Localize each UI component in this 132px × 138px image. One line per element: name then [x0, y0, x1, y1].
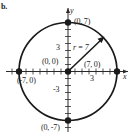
point-label-left: (-7, 0): [17, 77, 36, 85]
point-label-right: (7, 0): [84, 61, 100, 69]
x-axis-label: x: [123, 73, 126, 81]
y-tick-label-neg3: -3: [53, 86, 59, 94]
figure-container: b. y x (0, 7) (0, -7) (-7, 0) (7, 0) (0,…: [0, 0, 132, 138]
y-axis-label: y: [70, 7, 73, 15]
y-tick-label-3: 3: [56, 44, 60, 52]
radius-annotation-label: r = 7: [73, 44, 89, 52]
point-origin: [65, 68, 71, 74]
point-label-top: (0, 7): [74, 18, 90, 26]
coordinate-graph: [0, 0, 132, 138]
point-label-bottom: (0, -7): [41, 124, 60, 132]
item-label: b.: [1, 3, 7, 11]
x-tick-label-3: 3: [90, 75, 94, 83]
point-left: [16, 68, 22, 74]
point-top: [65, 19, 71, 25]
point-right: [114, 68, 120, 74]
point-bottom: [65, 117, 71, 123]
point-label-origin: (0, 0): [42, 58, 58, 66]
